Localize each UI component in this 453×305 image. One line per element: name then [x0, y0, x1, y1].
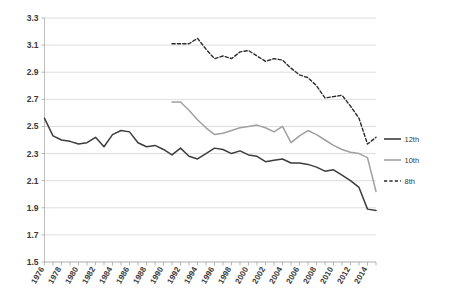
x-tick-label: 2006: [285, 265, 302, 285]
x-tick-label: 1998: [217, 265, 234, 285]
legend-item-12th[interactable]: 12th: [384, 135, 419, 144]
x-tick-label: 1976: [30, 265, 47, 285]
y-tick-label: 1.5: [27, 257, 39, 267]
x-tick-label: 1984: [98, 265, 115, 285]
x-tick-label: 2014: [353, 265, 370, 285]
legend-label: 8th: [405, 177, 415, 186]
y-tick-label: 3.3: [27, 13, 39, 23]
x-tick-label: 2002: [251, 265, 268, 285]
y-tick-label: 2.3: [27, 149, 39, 159]
x-tick-label: 1996: [200, 265, 217, 285]
x-tick-label: 2010: [319, 265, 336, 285]
x-tick-label: 1990: [149, 265, 166, 285]
x-tick-label: 1994: [183, 265, 200, 285]
legend-item-10th[interactable]: 10th: [384, 156, 419, 165]
x-tick-label: 2000: [234, 265, 251, 285]
data-series-group: [45, 38, 377, 210]
x-axis-tick-labels: 1976197819801982198419861988199019921994…: [30, 265, 370, 285]
x-tick-label: 2004: [268, 265, 285, 285]
axis-group: [42, 18, 377, 266]
chart-legend: 12th10th8th: [384, 135, 419, 186]
y-axis-tick-labels: 1.51.71.92.12.32.52.72.93.13.3: [27, 13, 39, 267]
y-tick-label: 3.1: [27, 40, 39, 50]
x-tick-label: 1980: [64, 265, 81, 285]
x-tick-label: 1992: [166, 265, 183, 285]
x-tick-label: 1982: [81, 265, 98, 285]
legend-label: 10th: [405, 156, 420, 165]
x-tick-label: 1978: [47, 265, 64, 285]
y-tick-label: 2.9: [27, 67, 39, 77]
x-tick-label: 1986: [115, 265, 132, 285]
y-tick-label: 2.7: [27, 94, 39, 104]
x-tick-label: 1988: [132, 265, 149, 285]
chart-container: 1.51.71.92.12.32.52.72.93.13.3 197619781…: [0, 0, 453, 305]
legend-item-8th[interactable]: 8th: [384, 177, 415, 186]
legend-label: 12th: [405, 135, 420, 144]
line-chart: 1.51.71.92.12.32.52.72.93.13.3 197619781…: [0, 0, 453, 305]
y-tick-label: 2.5: [27, 121, 39, 131]
series-line-8th: [172, 38, 376, 144]
y-tick-label: 1.9: [27, 203, 39, 213]
y-tick-label: 2.1: [27, 176, 39, 186]
x-tick-label: 2012: [336, 265, 353, 285]
y-tick-label: 1.7: [27, 230, 39, 240]
x-tick-label: 2008: [302, 265, 319, 285]
